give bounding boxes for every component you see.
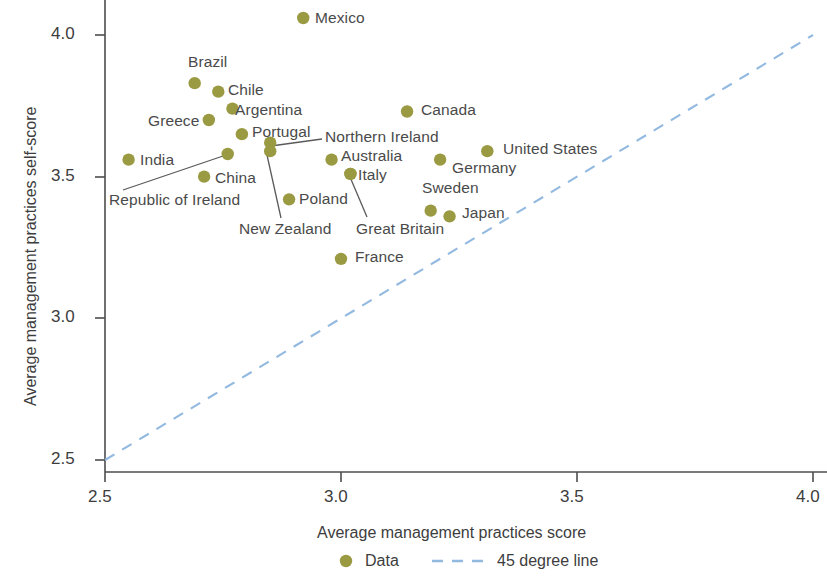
- legend-data-marker: [340, 555, 352, 567]
- legend-graphics: [0, 0, 827, 576]
- legend-data-label: Data: [365, 552, 399, 570]
- legend-line-label: 45 degree line: [497, 552, 598, 570]
- scatter-chart-figure: 4.0 3.5 3.0 2.5 2.5 3.0 3.5 4.0 Average …: [0, 0, 827, 576]
